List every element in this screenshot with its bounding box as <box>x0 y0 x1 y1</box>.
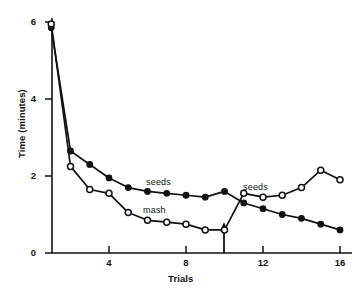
data-point-seeds-3 <box>87 162 93 168</box>
data-point-seeds-9 <box>202 194 208 200</box>
data-point-mash-9 <box>202 227 208 233</box>
y-axis-ticks <box>45 22 52 253</box>
axis-lines <box>52 18 352 253</box>
data-point-mash-4 <box>106 190 112 196</box>
annotation-mash-left: mash <box>143 205 166 215</box>
x-axis-title: Trials <box>168 273 193 284</box>
data-point-seeds-11 <box>241 200 247 206</box>
x-tick-label-16: 16 <box>332 257 348 268</box>
x-tick-label-4: 4 <box>102 257 116 268</box>
data-point-mash-3 <box>87 186 93 192</box>
data-point-seeds-15 <box>318 221 324 227</box>
data-point-mash-5 <box>125 210 131 216</box>
data-point-seeds-13 <box>279 212 285 218</box>
y-tick-label-6: 6 <box>27 16 40 27</box>
chart-figure: 6 4 2 0 4 8 12 16 Time (minutes) Trials … <box>0 0 361 295</box>
data-point-mash-8 <box>183 221 189 227</box>
data-point-mash-10 <box>222 227 228 233</box>
y-tick-label-2: 2 <box>27 170 40 181</box>
data-point-seeds-14 <box>299 216 305 222</box>
data-point-mash-16 <box>337 177 343 183</box>
data-point-seeds-16 <box>337 227 343 233</box>
data-point-mash-1 <box>48 21 54 27</box>
data-point-mash-2 <box>68 163 74 169</box>
data-point-seeds-6 <box>145 189 151 195</box>
y-tick-label-4: 4 <box>27 93 40 104</box>
data-point-mash-13 <box>279 192 285 198</box>
series-layer <box>48 21 343 233</box>
data-point-mash-15 <box>318 167 324 173</box>
chart-plot-area <box>0 0 361 295</box>
data-point-seeds-5 <box>125 185 131 191</box>
x-tick-label-8: 8 <box>179 257 193 268</box>
data-point-seeds-12 <box>260 206 266 212</box>
data-point-seeds-7 <box>164 191 170 197</box>
data-point-seeds-4 <box>106 175 112 181</box>
series-line-seeds-0 <box>51 28 340 230</box>
y-axis-title: Time (minutes) <box>16 84 27 164</box>
data-point-mash-12 <box>260 194 266 200</box>
annotation-seeds-right: seeds <box>243 182 268 192</box>
series-line-mash-1 <box>51 24 340 230</box>
data-point-mash-14 <box>299 185 305 191</box>
data-point-seeds-8 <box>183 192 189 198</box>
y-tick-label-0: 0 <box>27 247 40 258</box>
annotation-seeds-left: seeds <box>146 177 171 187</box>
data-point-mash-6 <box>145 217 151 223</box>
x-tick-label-12: 12 <box>255 257 271 268</box>
data-point-seeds-10 <box>222 189 228 195</box>
data-point-mash-7 <box>164 219 170 225</box>
